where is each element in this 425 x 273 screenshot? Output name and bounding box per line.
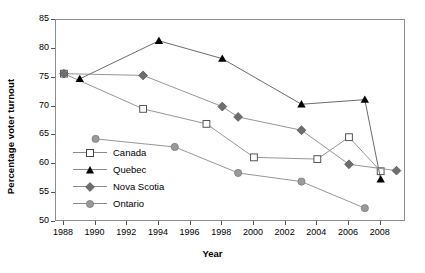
filled-circle-icon — [73, 198, 107, 210]
legend-label-quebec: Quebec — [107, 164, 146, 175]
filled-diamond-marker — [297, 126, 306, 135]
filled-diamond-marker — [392, 166, 401, 175]
open-square-marker — [251, 154, 258, 161]
filled-triangle-icon — [73, 164, 107, 176]
filled-triangle-marker — [376, 175, 384, 182]
open-square-marker — [140, 105, 147, 112]
filled-diamond-marker — [234, 113, 243, 122]
filled-triangle-marker — [155, 37, 163, 44]
y-tick-mark — [51, 221, 55, 222]
legend-item-nova-scotia: Nova Scotia — [73, 178, 191, 195]
y-tick-label: 50 — [15, 216, 49, 225]
y-tick-label: 65 — [15, 129, 49, 138]
x-axis-title: Year — [0, 248, 425, 259]
y-tick-label: 70 — [15, 101, 49, 110]
filled-diamond-marker — [139, 71, 148, 80]
y-tick-label: 80 — [15, 43, 49, 52]
filled-circle-marker — [92, 135, 99, 142]
legend: Canada Quebec Nova Scotia Ontario — [73, 144, 191, 212]
filled-diamond-icon — [73, 181, 107, 193]
y-tick-label: 85 — [15, 14, 49, 23]
voter-turnout-chart: Percentage voter turnout Year 5055606570… — [0, 0, 425, 273]
open-square-icon — [73, 147, 107, 159]
legend-label-ontario: Ontario — [107, 198, 144, 209]
legend-item-quebec: Quebec — [73, 161, 191, 178]
filled-circle-marker — [235, 169, 242, 176]
y-tick-label: 60 — [15, 158, 49, 167]
filled-diamond-marker — [345, 160, 354, 169]
legend-item-canada: Canada — [73, 144, 191, 161]
legend-label-nova-scotia: Nova Scotia — [107, 181, 164, 192]
filled-diamond-marker — [218, 102, 227, 111]
filled-circle-marker — [361, 205, 368, 212]
open-square-marker — [346, 134, 353, 141]
open-square-marker — [203, 120, 210, 127]
open-square-marker — [314, 156, 321, 163]
legend-label-canada: Canada — [107, 147, 146, 158]
filled-triangle-marker — [361, 95, 369, 102]
y-tick-label: 75 — [15, 72, 49, 81]
y-tick-label: 55 — [15, 187, 49, 196]
x-tick-label: 2008 — [360, 228, 400, 237]
filled-triangle-marker — [76, 75, 84, 82]
legend-item-ontario: Ontario — [73, 195, 191, 212]
filled-circle-marker — [298, 178, 305, 185]
